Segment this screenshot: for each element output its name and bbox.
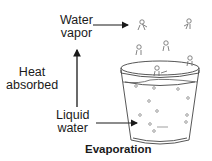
liquid-water-label-line2: water — [56, 122, 89, 135]
heat-absorbed-label: Heat absorbed — [6, 66, 58, 92]
liquid-water-label: Liquid water — [56, 109, 89, 135]
diagram-title: Evaporation — [85, 143, 151, 156]
water-vapor-label: Water vapor — [60, 14, 93, 40]
water-vapor-label-line2: vapor — [60, 27, 93, 40]
liquid-molecules — [135, 85, 190, 133]
glass-icon — [121, 61, 199, 144]
heat-absorbed-label-line2: absorbed — [6, 79, 58, 92]
water-surface — [123, 79, 197, 82]
vapor-molecules — [136, 19, 192, 76]
